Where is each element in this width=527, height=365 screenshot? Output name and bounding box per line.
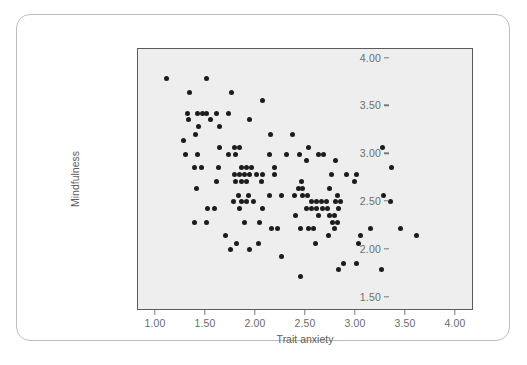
data-point [239, 165, 244, 170]
data-point [335, 193, 340, 198]
data-point [217, 145, 222, 150]
data-point [320, 206, 325, 211]
data-point [204, 76, 209, 81]
y-axis-title: Mindfulness [69, 151, 81, 207]
x-tick-label: 3.00 [344, 317, 365, 329]
plot-surface [138, 49, 472, 309]
data-point [304, 206, 309, 211]
data-point [333, 158, 338, 163]
y-tick-label: 3.50 [360, 99, 381, 111]
data-point [269, 226, 274, 231]
y-tick-label: 2.00 [360, 243, 381, 255]
x-tick-label: 1.00 [144, 317, 165, 329]
data-point [192, 165, 197, 170]
data-point [330, 220, 335, 225]
data-point [327, 213, 332, 218]
data-point [325, 206, 330, 211]
data-point [242, 220, 247, 225]
data-point [284, 152, 289, 157]
y-tick-mark [384, 57, 389, 58]
data-point [187, 90, 192, 95]
data-point [344, 172, 349, 177]
y-tick-mark [384, 105, 389, 106]
data-point [316, 152, 321, 157]
data-point [319, 199, 324, 204]
data-point [186, 117, 191, 122]
y-tick-label: 3.00 [360, 147, 381, 159]
data-point [306, 145, 311, 150]
data-point [332, 226, 337, 231]
data-point [231, 199, 236, 204]
data-point [299, 179, 304, 184]
data-point [338, 199, 343, 204]
data-point [214, 111, 219, 116]
data-point [242, 172, 247, 177]
data-point [228, 247, 233, 252]
data-point [234, 241, 239, 246]
x-tick-label: 4.00 [444, 317, 465, 329]
data-point [332, 213, 337, 218]
data-point [398, 226, 403, 231]
data-point [329, 172, 334, 177]
data-point [389, 165, 394, 170]
data-point [244, 199, 249, 204]
data-point [279, 254, 284, 259]
y-tick-label: 1.50 [360, 291, 381, 303]
data-point [267, 193, 272, 198]
data-point [237, 172, 242, 177]
data-point [237, 206, 242, 211]
x-tick-mark [304, 310, 305, 315]
data-point [313, 241, 318, 246]
data-point [244, 165, 249, 170]
data-point [233, 179, 238, 184]
data-point [260, 172, 265, 177]
data-point [259, 179, 264, 184]
data-point [232, 145, 237, 150]
data-point [298, 274, 303, 279]
y-tick-label: 4.00 [360, 52, 381, 64]
data-point [268, 132, 273, 137]
scatter-plot-frame [137, 48, 473, 310]
x-tick-label: 1.50 [194, 317, 215, 329]
data-point [304, 158, 309, 163]
data-point [193, 132, 198, 137]
data-point [204, 111, 209, 116]
data-point [309, 206, 314, 211]
data-point [216, 165, 221, 170]
data-point [214, 179, 219, 184]
data-point [321, 152, 326, 157]
data-point [229, 90, 234, 95]
x-tick-mark [254, 310, 255, 315]
data-point [236, 193, 241, 198]
data-point [194, 186, 199, 191]
data-point [195, 152, 200, 157]
x-tick-mark [154, 310, 155, 315]
data-point [181, 138, 186, 143]
data-point [292, 193, 297, 198]
data-point [257, 220, 262, 225]
data-point [249, 165, 254, 170]
y-tick-mark [384, 296, 389, 297]
data-point [290, 132, 295, 137]
data-point [381, 193, 386, 198]
x-tick-mark [454, 310, 455, 315]
data-point [237, 145, 242, 150]
y-tick-mark [384, 248, 389, 249]
data-point [272, 165, 277, 170]
data-point [267, 152, 272, 157]
figure-page: Mindfulness Trait anxiety 1.502.002.503.… [0, 0, 527, 365]
data-point [247, 172, 252, 177]
data-point [239, 179, 244, 184]
data-point [335, 220, 340, 225]
data-point [314, 199, 319, 204]
data-point [279, 193, 284, 198]
x-axis-title: Trait anxiety [277, 333, 334, 345]
data-point [260, 206, 265, 211]
data-point [205, 206, 210, 211]
data-point [298, 226, 303, 231]
data-point [341, 261, 346, 266]
data-point [314, 206, 319, 211]
data-point [196, 124, 201, 129]
x-tick-label: 2.50 [294, 317, 315, 329]
data-point [233, 152, 238, 157]
